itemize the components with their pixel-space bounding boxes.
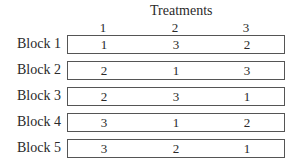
treatment-cell: 1 xyxy=(166,115,186,131)
block-box: 1 3 2 xyxy=(67,35,285,54)
column-header-2: 2 xyxy=(165,20,185,36)
treatment-cell: 1 xyxy=(237,141,257,157)
block-label: Block 4 xyxy=(17,114,61,130)
treatment-cell: 3 xyxy=(166,37,186,53)
column-header-3: 3 xyxy=(236,20,256,36)
treatment-cell: 2 xyxy=(94,89,114,105)
block-box: 3 2 1 xyxy=(67,139,285,158)
block-box: 2 1 3 xyxy=(67,61,285,80)
treatment-cell: 1 xyxy=(94,37,114,53)
treatment-cell: 2 xyxy=(237,115,257,131)
treatment-cell: 3 xyxy=(166,89,186,105)
treatment-cell: 2 xyxy=(237,37,257,53)
treatment-cell: 2 xyxy=(94,63,114,79)
treatment-cell: 2 xyxy=(166,141,186,157)
treatments-title: Treatments xyxy=(150,3,212,19)
block-row: Block 5 3 2 1 xyxy=(0,139,294,158)
block-box: 2 3 1 xyxy=(67,87,285,106)
column-header-1: 1 xyxy=(93,20,113,36)
block-box: 3 1 2 xyxy=(67,113,285,132)
block-row: Block 1 1 3 2 xyxy=(0,35,294,54)
treatment-cell: 3 xyxy=(94,115,114,131)
treatment-cell: 1 xyxy=(166,63,186,79)
treatment-cell: 1 xyxy=(237,89,257,105)
block-label: Block 5 xyxy=(17,140,61,156)
treatment-cell: 3 xyxy=(94,141,114,157)
block-row: Block 4 3 1 2 xyxy=(0,113,294,132)
block-label: Block 3 xyxy=(17,88,61,104)
treatment-cell: 3 xyxy=(237,63,257,79)
block-label: Block 2 xyxy=(17,62,61,78)
block-row: Block 3 2 3 1 xyxy=(0,87,294,106)
block-row: Block 2 2 1 3 xyxy=(0,61,294,80)
block-label: Block 1 xyxy=(17,36,61,52)
